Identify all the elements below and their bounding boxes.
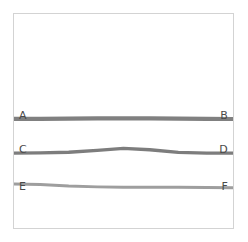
line-series-band-1 bbox=[14, 118, 233, 119]
series-label-c: C bbox=[19, 144, 27, 155]
figure-frame: A B C D E F bbox=[13, 13, 234, 229]
plot-area: A B C D E F bbox=[14, 14, 233, 228]
series-label-f: F bbox=[221, 181, 228, 192]
series-label-b: B bbox=[220, 110, 228, 121]
line-series-band-3 bbox=[14, 184, 233, 188]
line-series-group bbox=[14, 14, 233, 228]
figure-canvas: A B C D E F bbox=[0, 0, 248, 242]
series-label-d: D bbox=[219, 144, 228, 155]
line-series-band-2 bbox=[14, 148, 233, 153]
series-label-a: A bbox=[19, 110, 27, 121]
series-label-e: E bbox=[19, 181, 26, 192]
